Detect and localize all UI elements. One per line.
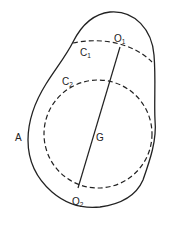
label-a: A <box>15 132 22 143</box>
diagram: O1 C1 C2 A G O2 <box>0 0 170 228</box>
label-c1: C1 <box>80 47 91 59</box>
label-o2: O2 <box>72 196 84 208</box>
label-g: G <box>96 132 104 143</box>
label-o1: O1 <box>114 33 126 45</box>
axis-o1-o2 <box>78 47 120 188</box>
label-c2: C2 <box>62 76 73 88</box>
